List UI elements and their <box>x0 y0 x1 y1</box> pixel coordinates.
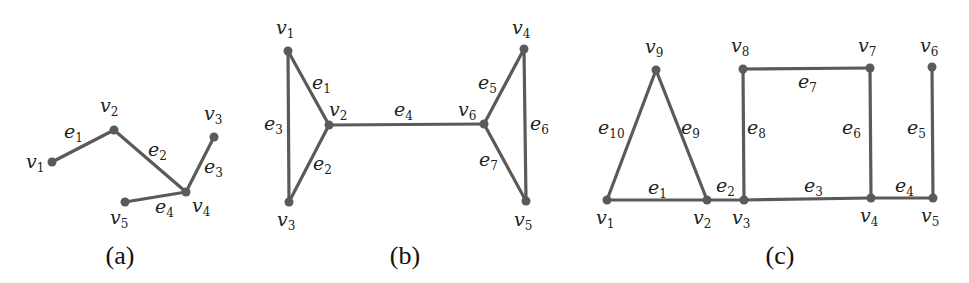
vertex-label-v4: v4 <box>512 16 531 41</box>
vertex-v4 <box>182 188 191 197</box>
vertex-v1 <box>284 47 293 56</box>
edge-label-e7: e7 <box>479 148 498 173</box>
vertex-v2 <box>325 121 334 130</box>
edge-e5 <box>932 67 933 198</box>
vertex-label-v2: v2 <box>329 98 347 123</box>
edge-e3 <box>288 51 289 202</box>
edge-e6 <box>870 68 871 198</box>
vertex-v7 <box>866 64 875 73</box>
edge-label-e3: e3 <box>264 112 283 137</box>
vertex-label-v5: v5 <box>110 206 128 231</box>
vertex-v5 <box>121 198 130 207</box>
edge-e1 <box>52 130 114 162</box>
vertex-label-v2: v2 <box>693 206 711 231</box>
edge-label-e1: e1 <box>312 71 331 96</box>
vertex-label-v4: v4 <box>192 194 211 219</box>
edge-label-e9: e9 <box>681 116 700 141</box>
vertex-v4 <box>520 45 529 54</box>
vertex-label-v6: v6 <box>458 98 476 123</box>
vertex-v6 <box>480 120 489 129</box>
vertex-v1 <box>603 196 612 205</box>
edge-label-e6: e6 <box>842 116 861 141</box>
graph-figure-canvas: v1v2v3v4v5e1e2e3e4(a)v1v2v3v4v5v6e1e2e3e… <box>0 0 969 283</box>
vertex-v6 <box>928 63 937 72</box>
vertex-label-v4: v4 <box>860 204 879 229</box>
vertex-label-v9: v9 <box>645 35 663 60</box>
vertex-label-v3: v3 <box>277 208 295 233</box>
graph-panel-c: v1v2v3v4v5v6v7v8v9e1e2e3e4e5e6e7e8e9e10(… <box>596 34 939 270</box>
caption-a: (a) <box>106 241 135 270</box>
vertex-label-v2: v2 <box>100 94 118 119</box>
vertex-label-v3: v3 <box>732 206 750 231</box>
vertex-label-v1: v1 <box>596 206 614 231</box>
vertex-v9 <box>652 66 661 75</box>
vertex-v3 <box>285 198 294 207</box>
vertex-label-v5: v5 <box>514 208 532 233</box>
vertex-label-v7: v7 <box>858 34 876 59</box>
vertex-v2 <box>110 126 119 135</box>
vertex-label-v5: v5 <box>921 204 939 229</box>
edge-label-e2: e2 <box>148 138 167 163</box>
edge-label-e1: e1 <box>64 120 83 145</box>
vertex-v3 <box>740 196 749 205</box>
graph-panel-b: v1v2v3v4v5v6e1e2e3e4e5e6e7(b) <box>264 16 549 270</box>
edge-label-e10: e10 <box>598 116 625 141</box>
edge-label-e3: e3 <box>204 155 223 180</box>
edge-e7 <box>743 68 870 69</box>
edge-label-e7: e7 <box>798 70 817 95</box>
edge-label-e4: e4 <box>895 174 914 199</box>
vertex-label-v3: v3 <box>204 102 222 127</box>
edge-label-e1: e1 <box>648 176 667 201</box>
edge-label-e4: e4 <box>155 195 174 220</box>
vertex-label-v6: v6 <box>920 34 938 59</box>
vertex-v8 <box>739 65 748 74</box>
edge-e8 <box>743 69 744 200</box>
edge-label-e5: e5 <box>907 116 926 141</box>
edge-label-e6: e6 <box>530 112 549 137</box>
vertex-v5 <box>522 197 531 206</box>
graph-figure: v1v2v3v4v5e1e2e3e4(a)v1v2v3v4v5v6e1e2e3e… <box>0 0 969 283</box>
vertex-v3 <box>210 133 219 142</box>
vertex-label-v1: v1 <box>276 16 294 41</box>
caption-b: (b) <box>390 241 420 270</box>
edge-e4 <box>329 124 484 125</box>
vertex-label-v8: v8 <box>731 34 749 59</box>
vertex-v5 <box>929 194 938 203</box>
caption-c: (c) <box>766 241 795 270</box>
vertex-v4 <box>867 194 876 203</box>
edge-e3 <box>744 198 871 200</box>
edge-e6 <box>524 49 526 201</box>
edge-label-e8: e8 <box>747 116 766 141</box>
edge-label-e4: e4 <box>394 98 413 123</box>
edge-label-e2: e2 <box>313 152 332 177</box>
vertex-v1 <box>48 158 57 167</box>
edge-label-e5: e5 <box>478 71 497 96</box>
graph-panel-a: v1v2v3v4v5e1e2e3e4(a) <box>26 94 223 270</box>
edge-label-e3: e3 <box>804 174 823 199</box>
vertex-v2 <box>703 196 712 205</box>
vertex-label-v1: v1 <box>26 150 44 175</box>
edge-label-e2: e2 <box>716 174 735 199</box>
